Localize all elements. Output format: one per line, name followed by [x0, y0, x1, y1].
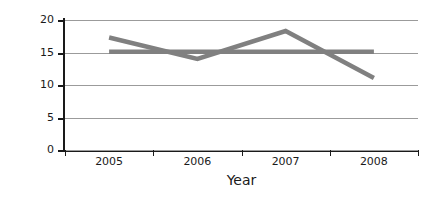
- x-tick: [418, 150, 419, 156]
- y-tick: [58, 20, 63, 22]
- data-series-line: [109, 31, 374, 78]
- y-tick-label: 20: [30, 13, 54, 26]
- series-plot-area: [65, 20, 418, 150]
- x-axis-title: Year: [65, 172, 418, 188]
- y-tick-label: 10: [30, 78, 54, 91]
- x-tick-label: 2008: [344, 155, 404, 168]
- y-tick: [58, 85, 63, 87]
- x-tick: [153, 150, 154, 156]
- y-tick: [58, 53, 63, 55]
- y-tick-label: 0: [30, 143, 54, 156]
- y-tick: [58, 118, 63, 120]
- line-chart: Percentage 05101520 2005200620072008 Yea…: [0, 0, 439, 199]
- y-tick-label: 5: [30, 111, 54, 124]
- x-tick-label: 2005: [79, 155, 139, 168]
- y-tick: [58, 150, 63, 152]
- x-tick-label: 2006: [167, 155, 227, 168]
- x-tick: [65, 150, 66, 156]
- x-tick: [242, 150, 243, 156]
- x-tick: [330, 150, 331, 156]
- x-tick-label: 2007: [256, 155, 316, 168]
- y-tick-label: 15: [30, 46, 54, 59]
